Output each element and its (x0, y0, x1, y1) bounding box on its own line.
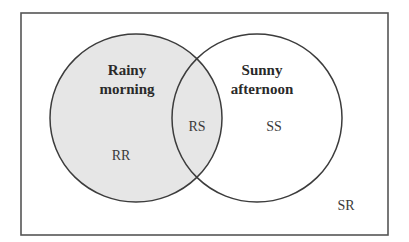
set-label-sunny-line2: afternoon (231, 81, 294, 97)
venn-diagram: Rainy morning Sunny afternoon RR RS SS S… (0, 0, 409, 242)
set-label-rainy-line1: Rainy (108, 62, 147, 78)
region-label-rr: RR (112, 148, 131, 163)
set-label-sunny-line1: Sunny (242, 62, 283, 78)
region-label-ss: SS (266, 119, 282, 134)
set-label-rainy-line2: morning (99, 81, 155, 97)
region-label-rs: RS (188, 119, 205, 134)
region-label-sr: SR (337, 198, 355, 213)
